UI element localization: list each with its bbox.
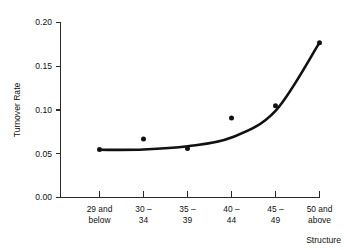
y-axis-title: Turnover Rate	[12, 82, 22, 137]
x-tick-label-1-line2: 34	[139, 215, 149, 225]
data-point-4	[273, 103, 278, 108]
x-tick-label-2-line1: 35 –	[179, 204, 196, 214]
y-tick-label-3: 0.15	[35, 61, 52, 71]
turnover-rate-scatter-chart: 0.20 0.15 0.10 0.05 0.00 Turnover Rate 2…	[0, 0, 344, 250]
data-point-3	[229, 115, 234, 120]
data-point-5	[317, 40, 322, 45]
data-point-0	[97, 147, 102, 152]
x-tick-label-5-line2: above	[308, 215, 331, 225]
x-tick-label-1-line1: 30 –	[135, 204, 152, 214]
y-tick-label-4: 0.20	[35, 17, 52, 27]
x-tick-label-0-line2: below	[89, 215, 112, 225]
x-tick-label-0-line1: 29 and	[87, 204, 113, 214]
chart-figure: 0.20 0.15 0.10 0.05 0.00 Turnover Rate 2…	[0, 0, 344, 250]
data-point-2	[185, 146, 190, 151]
y-tick-label-0: 0.00	[35, 192, 52, 202]
y-tick-label-1: 0.05	[35, 149, 52, 159]
x-tick-label-3-line2: 44	[227, 215, 237, 225]
x-tick-label-3-line1: 40 –	[223, 204, 240, 214]
x-tick-label-2-line2: 39	[183, 215, 193, 225]
x-tick-label-4-line2: 49	[271, 215, 281, 225]
x-axis-title: Structure	[306, 235, 341, 245]
x-tick-label-5-line1: 50 and	[307, 204, 333, 214]
x-tick-label-4-line1: 45 –	[267, 204, 284, 214]
chart-background	[0, 0, 344, 250]
data-point-1	[141, 136, 146, 141]
y-tick-label-2: 0.10	[35, 105, 52, 115]
